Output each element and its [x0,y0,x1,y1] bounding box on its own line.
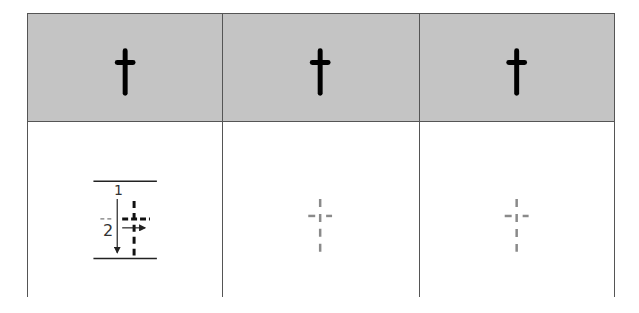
tracing-cell-1[interactable] [223,122,419,297]
model-letter-row [28,14,614,122]
stroke-2-number: 2 [103,223,113,239]
tracing-cell-2[interactable] [420,122,614,297]
letter-practice-worksheet: 1 2 [27,13,615,297]
practice-row: 1 2 [28,122,614,297]
model-letter-cell-3 [420,14,614,121]
model-letter-cell-2 [223,14,419,121]
letter-t-glyph [223,14,418,121]
model-letter-cell-1 [28,14,223,121]
letter-t-glyph [420,14,614,121]
stroke-1-number: 1 [114,183,123,197]
stroke-order-cell: 1 2 [28,122,223,297]
stroke-order-diagram [28,122,222,297]
dashed-letter-t-icon [223,122,418,297]
letter-t-glyph [28,14,222,121]
dashed-letter-t-icon [420,122,614,297]
